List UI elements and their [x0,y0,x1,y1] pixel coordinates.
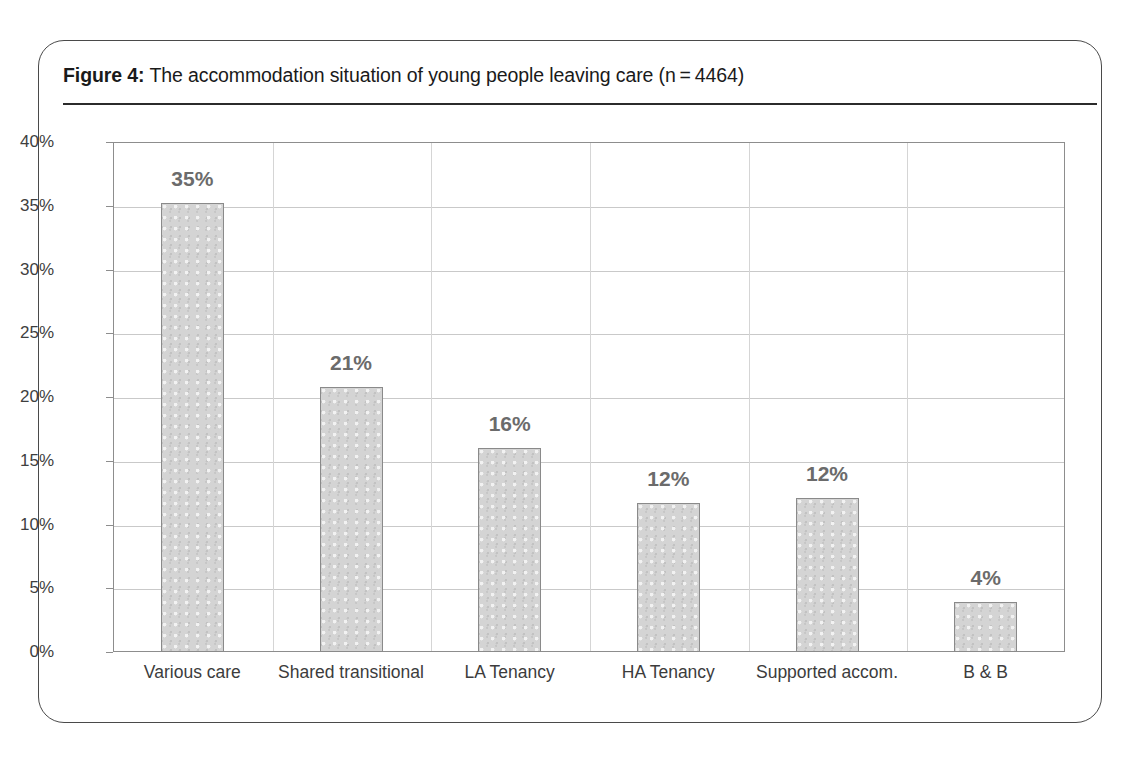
bar-value-label: 12% [608,467,728,491]
bar-value-label: 4% [926,566,1046,590]
y-tick-mark [106,588,113,589]
plot-area [113,142,1065,652]
bar[interactable] [161,203,224,652]
y-tick-mark [106,142,113,143]
bar[interactable] [478,448,541,652]
x-axis-label: B & B [896,662,1076,683]
y-axis-label: 10% [20,515,54,535]
y-tick-mark [106,206,113,207]
bar-value-label: 12% [767,462,887,486]
y-axis-label: 20% [20,387,54,407]
gridline [114,271,1064,272]
y-tick-mark [106,333,113,334]
bar-chart: 40%35%30%25%20%15%10%5%0%35%Various care… [0,0,1130,758]
gridline [114,207,1064,208]
y-axis-label: 15% [20,451,54,471]
y-axis-label: 35% [20,196,54,216]
y-axis-label: 5% [29,578,54,598]
bar-value-label: 21% [291,351,411,375]
y-axis-label: 0% [29,642,54,662]
gridline [114,334,1064,335]
category-separator [431,143,432,651]
x-axis-label: Supported accom. [737,662,917,683]
bar[interactable] [637,503,700,652]
x-axis-label: Various care [102,662,282,683]
x-axis-label: HA Tenancy [578,662,758,683]
y-axis-label: 30% [20,260,54,280]
y-tick-mark [106,397,113,398]
gridline [114,462,1064,463]
gridline [114,398,1064,399]
category-separator [273,143,274,651]
y-tick-mark [106,461,113,462]
category-separator [749,143,750,651]
y-tick-mark [106,652,113,653]
x-axis-label: LA Tenancy [420,662,600,683]
y-tick-mark [106,270,113,271]
x-axis-label: Shared transitional [261,662,441,683]
bar[interactable] [320,387,383,652]
bar-value-label: 16% [450,412,570,436]
y-axis-label: 40% [20,132,54,152]
bar[interactable] [954,602,1017,652]
y-tick-mark [106,525,113,526]
gridline [114,526,1064,527]
category-separator [590,143,591,651]
bar-value-label: 35% [132,167,252,191]
y-axis-label: 25% [20,323,54,343]
gridline [114,589,1064,590]
bar[interactable] [796,498,859,652]
category-separator [907,143,908,651]
